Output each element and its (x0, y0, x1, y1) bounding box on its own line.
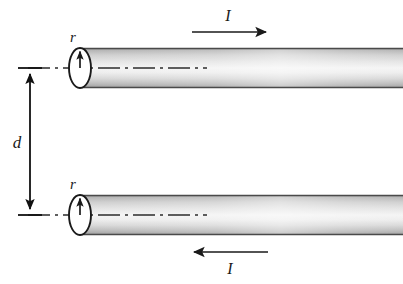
physics-figure-parallel-wires: r r d I I (0, 0, 403, 284)
bottom-radius-label: r (70, 176, 76, 192)
top-radius-label: r (70, 29, 76, 45)
top-cylinder-highlight (80, 48, 403, 88)
figure-background (0, 0, 403, 284)
top-current-label: I (224, 7, 231, 24)
bottom-cylinder-highlight (80, 195, 403, 235)
bottom-current-label: I (226, 260, 233, 277)
separation-label: d (13, 133, 22, 152)
figure-canvas: r r d I I (0, 0, 403, 284)
